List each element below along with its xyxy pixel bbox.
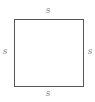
side-label-top: s	[43, 6, 53, 15]
square-shape	[14, 19, 84, 87]
side-label-bottom: s	[43, 89, 53, 98]
side-label-right: s	[85, 47, 95, 56]
side-label-left: s	[0, 47, 10, 56]
